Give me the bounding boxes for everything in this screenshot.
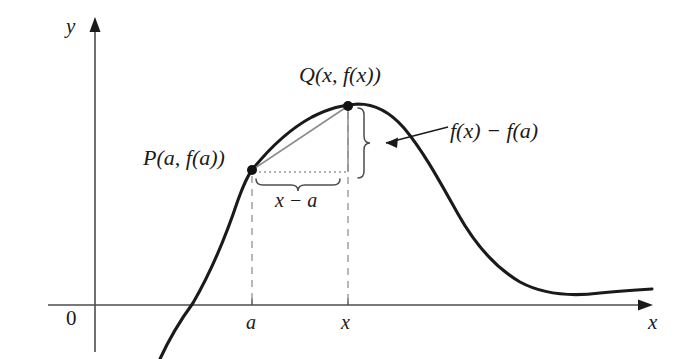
rise-arrow-head: [386, 138, 398, 149]
y-axis-label: y: [66, 16, 75, 37]
rise-label: f(x) − f(a): [450, 120, 538, 142]
secant-line-figure: y x 0 a x P(a, f(a)) Q(x, f(x)) x − a f(…: [0, 0, 675, 359]
tick-label-a: a: [246, 312, 256, 332]
x-axis: [48, 300, 653, 311]
brace-rise: [358, 108, 370, 178]
point-marker-q: [343, 101, 353, 111]
point-label-p: P(a, f(a)): [143, 147, 225, 169]
x-axis-label: x: [648, 312, 657, 333]
tick-label-x: x: [341, 312, 350, 332]
run-label: x − a: [275, 190, 317, 210]
x-axis-arrowhead: [638, 300, 653, 311]
origin-label: 0: [66, 308, 77, 329]
point-marker-p: [247, 165, 257, 175]
y-axis: [90, 17, 101, 352]
point-label-q: Q(x, f(x)): [299, 64, 381, 86]
y-axis-arrowhead: [90, 17, 101, 32]
figure-canvas: [0, 0, 675, 359]
secant-line: [252, 106, 348, 170]
function-curve: [160, 104, 652, 359]
